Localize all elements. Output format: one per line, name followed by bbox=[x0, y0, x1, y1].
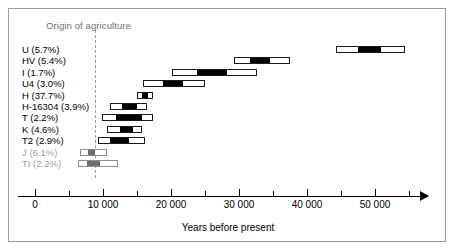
x-tick-40000 bbox=[307, 189, 308, 196]
x-minor-tick-15000 bbox=[137, 191, 138, 196]
x-tick-label-50000: 50 000 bbox=[360, 199, 391, 210]
x-minor-tick-55000 bbox=[409, 191, 410, 196]
x-minor-tick-35000 bbox=[273, 191, 274, 196]
x-minor-tick-25000 bbox=[205, 191, 206, 196]
range-bar-t2 bbox=[98, 137, 145, 144]
x-tick-label-20000: 20 000 bbox=[156, 199, 187, 210]
x-tick-label-40000: 40 000 bbox=[292, 199, 323, 210]
row-label-t: T (2.2%) bbox=[22, 112, 58, 123]
range-bar-core-ti bbox=[87, 161, 101, 166]
row-label-h-16304: H-16304 (3.9%) bbox=[22, 101, 89, 112]
plot-area: Origin of agriculture U (5.7%)HV (5.4%)I… bbox=[0, 0, 456, 252]
x-tick-label-30000: 30 000 bbox=[224, 199, 255, 210]
range-bar-t bbox=[102, 114, 153, 121]
x-tick-10000 bbox=[103, 189, 104, 196]
x-tick-label-10000: 10 000 bbox=[88, 199, 119, 210]
range-bar-core-h-16304 bbox=[122, 104, 137, 109]
range-bar-core-hv bbox=[250, 58, 270, 63]
range-bar-k bbox=[107, 126, 142, 133]
range-bar-u bbox=[336, 46, 405, 53]
range-bar-core-t2 bbox=[110, 138, 129, 143]
x-axis-title: Years before present bbox=[0, 222, 456, 233]
x-axis-line bbox=[18, 196, 423, 197]
range-bar-core-i bbox=[197, 70, 227, 75]
range-bar-h-16304 bbox=[110, 103, 147, 110]
range-bar-core-t bbox=[116, 115, 142, 120]
range-bar-h bbox=[137, 92, 153, 99]
row-label-u4: U4 (3.0%) bbox=[22, 78, 65, 89]
range-bar-ti bbox=[78, 160, 118, 167]
row-label-h: H (37.7%) bbox=[22, 90, 65, 101]
range-bar-core-u4 bbox=[163, 81, 183, 86]
x-tick-30000 bbox=[239, 189, 240, 196]
row-label-j: J (6.1%) bbox=[22, 147, 57, 158]
row-label-ti: TI (2.2%) bbox=[22, 158, 61, 169]
x-axis-arrow-icon bbox=[420, 191, 429, 201]
origin-of-agriculture-label: Origin of agriculture bbox=[46, 20, 131, 31]
origin-of-agriculture-line bbox=[95, 30, 96, 178]
range-bar-i bbox=[172, 69, 257, 76]
x-tick-label-0: 0 bbox=[32, 199, 38, 210]
row-label-t2: T2 (2.9%) bbox=[22, 135, 64, 146]
x-minor-tick-45000 bbox=[341, 191, 342, 196]
x-tick-50000 bbox=[375, 189, 376, 196]
chart-root: Origin of agriculture U (5.7%)HV (5.4%)I… bbox=[0, 0, 456, 252]
range-bar-core-j bbox=[88, 150, 95, 155]
range-bar-core-k bbox=[120, 127, 133, 132]
range-bar-hv bbox=[234, 57, 290, 64]
range-bar-core-u bbox=[358, 47, 381, 52]
x-minor-tick-5000 bbox=[69, 191, 70, 196]
range-bar-j bbox=[80, 149, 107, 156]
row-label-hv: HV (5.4%) bbox=[22, 55, 66, 66]
row-label-k: K (4.6%) bbox=[22, 124, 59, 135]
x-tick-0 bbox=[35, 189, 36, 196]
row-label-u: U (5.7%) bbox=[22, 44, 59, 55]
range-bar-core-h bbox=[142, 93, 148, 98]
x-tick-20000 bbox=[171, 189, 172, 196]
range-bar-u4 bbox=[143, 80, 205, 87]
row-label-i: I (1.7%) bbox=[22, 67, 55, 78]
